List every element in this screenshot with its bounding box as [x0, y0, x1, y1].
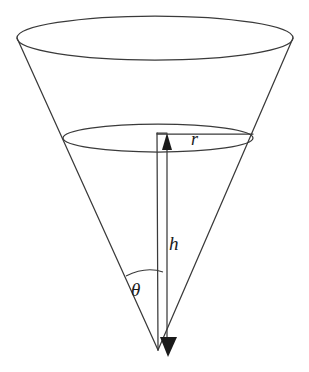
liquid-surface-ellipse — [63, 124, 253, 152]
cone-axis-line — [157, 133, 158, 350]
top-rim-ellipse — [17, 16, 293, 60]
radius-label: r — [191, 130, 198, 148]
height-label: h — [169, 234, 179, 253]
right-slant-line — [158, 38, 293, 350]
left-slant-line — [17, 38, 158, 350]
cone-diagram-canvas — [0, 0, 309, 372]
angle-label: θ — [131, 280, 140, 299]
height-arrow-head-down — [160, 337, 177, 357]
height-arrow-head-up — [162, 133, 172, 150]
cone-diagram-figure: r h θ — [0, 0, 309, 372]
